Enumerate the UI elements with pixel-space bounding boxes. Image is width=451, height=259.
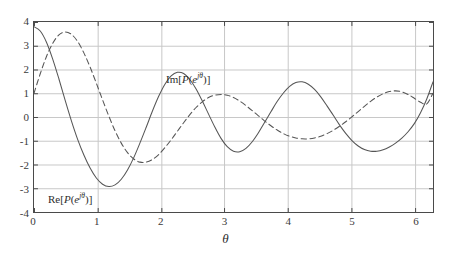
annotation-im-close: )] — [203, 73, 210, 85]
y-tick-label: 3 — [3, 40, 29, 51]
y-tick-label: -2 — [3, 160, 29, 171]
annotation-re-label: Re[P(ejθ)] — [48, 190, 92, 205]
y-tick-label: 4 — [3, 16, 29, 27]
x-tick-label: 3 — [212, 216, 236, 227]
y-tick-label: -1 — [3, 136, 29, 147]
curve-layer — [34, 22, 433, 212]
y-axis-ticks: 43210-1-2-3-4 — [0, 21, 29, 213]
annotation-im-prefix: Im[ — [166, 73, 182, 85]
annotation-re-prefix: Re[ — [48, 193, 64, 205]
annotation-im-p: P — [182, 73, 189, 85]
annotation-re-p: P — [64, 193, 71, 205]
series-line-im — [34, 32, 433, 163]
y-tick-label: 1 — [3, 88, 29, 99]
y-tick-label: 2 — [3, 64, 29, 75]
figure-canvas: 43210-1-2-3-4 0123456 θ Im[P(ejθ)] Re[P(… — [0, 0, 451, 259]
x-tick-label: 6 — [404, 216, 428, 227]
y-tick-label: 0 — [3, 112, 29, 123]
x-axis-label: θ — [0, 231, 451, 247]
x-tick-label: 0 — [21, 216, 45, 227]
x-tick-label: 4 — [276, 216, 300, 227]
annotation-im-label: Im[P(ejθ)] — [166, 70, 210, 85]
x-tick-label: 5 — [340, 216, 364, 227]
x-tick-label: 2 — [149, 216, 173, 227]
y-tick-label: -3 — [3, 184, 29, 195]
annotation-re-close: )] — [85, 193, 92, 205]
x-tick-label: 1 — [85, 216, 109, 227]
plot-area — [33, 21, 434, 213]
series-line-re — [34, 27, 433, 187]
x-axis-ticks: 0123456 — [33, 216, 434, 230]
